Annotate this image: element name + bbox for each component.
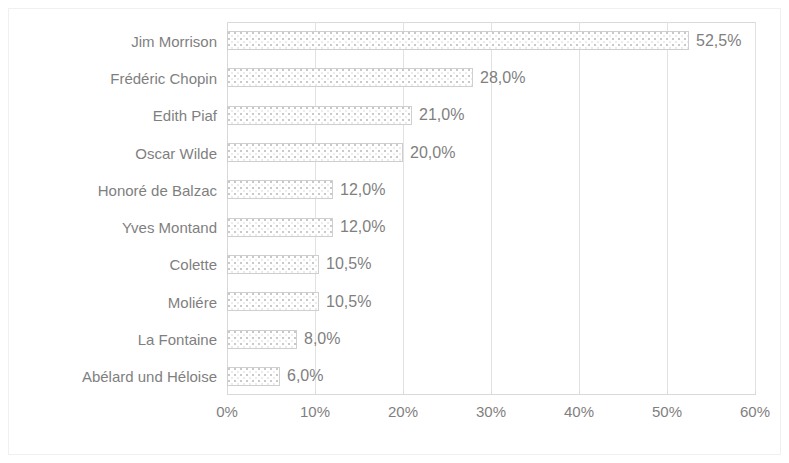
- category-label: Oscar Wilde: [2, 146, 217, 161]
- category-label: Frédéric Chopin: [2, 71, 217, 86]
- bar-row: 6,0%: [227, 367, 755, 386]
- plot-area: 52,5%28,0%21,0%20,0%12,0%12,0%10,5%10,5%…: [227, 22, 755, 395]
- bar-row: 21,0%: [227, 106, 755, 125]
- category-label: Honoré de Balzac: [2, 183, 217, 198]
- bar: [227, 143, 403, 162]
- tick-mark-20%: [403, 391, 404, 395]
- bar-row: 12,0%: [227, 180, 755, 199]
- bar-row: 12,0%: [227, 218, 755, 237]
- bar-value-label: 10,5%: [326, 294, 371, 310]
- bar-row: 52,5%: [227, 31, 755, 50]
- bar-value-label: 12,0%: [340, 182, 385, 198]
- x-tick-label: 20%: [388, 404, 418, 419]
- category-label: Edith Piaf: [2, 108, 217, 123]
- bar-row: 20,0%: [227, 143, 755, 162]
- bar: [227, 255, 319, 274]
- bar-row: 8,0%: [227, 330, 755, 349]
- category-label: Colette: [2, 257, 217, 272]
- category-label: La Fontaine: [2, 332, 217, 347]
- tick-mark-60%: [755, 391, 756, 395]
- tick-mark-40%: [579, 391, 580, 395]
- gridline-60%: [755, 22, 756, 395]
- bar-value-label: 12,0%: [340, 219, 385, 235]
- category-label: Yves Montand: [2, 220, 217, 235]
- bar-chart: 52,5%28,0%21,0%20,0%12,0%12,0%10,5%10,5%…: [0, 0, 789, 463]
- bar: [227, 292, 319, 311]
- bar: [227, 31, 689, 50]
- x-tick-label: 50%: [652, 404, 682, 419]
- x-tick-label: 0%: [216, 404, 238, 419]
- bar: [227, 218, 333, 237]
- x-tick-label: 30%: [476, 404, 506, 419]
- bar-row: 28,0%: [227, 68, 755, 87]
- bar-value-label: 10,5%: [326, 256, 371, 272]
- category-label: Moliére: [2, 295, 217, 310]
- tick-mark-30%: [491, 391, 492, 395]
- category-label: Abélard und Héloise: [2, 369, 217, 384]
- bar-value-label: 20,0%: [410, 145, 455, 161]
- bar-row: 10,5%: [227, 292, 755, 311]
- category-label: Jim Morrison: [2, 34, 217, 49]
- tick-mark-10%: [315, 391, 316, 395]
- bar-value-label: 21,0%: [419, 107, 464, 123]
- bar: [227, 180, 333, 199]
- bar: [227, 367, 280, 386]
- bar-value-label: 8,0%: [304, 331, 340, 347]
- tick-mark-0%: [227, 391, 228, 395]
- tick-mark-50%: [667, 391, 668, 395]
- bar: [227, 68, 473, 87]
- bar-row: 10,5%: [227, 255, 755, 274]
- bar-value-label: 52,5%: [696, 33, 741, 49]
- bar: [227, 106, 412, 125]
- bar: [227, 330, 297, 349]
- x-tick-label: 40%: [564, 404, 594, 419]
- x-tick-label: 10%: [300, 404, 330, 419]
- bar-value-label: 6,0%: [287, 368, 323, 384]
- x-tick-label: 60%: [740, 404, 770, 419]
- bar-value-label: 28,0%: [480, 70, 525, 86]
